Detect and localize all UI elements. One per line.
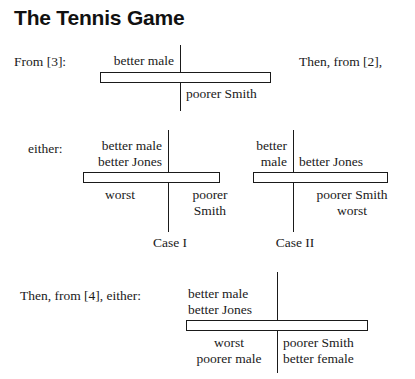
- label-line: poorer male: [186, 351, 272, 367]
- figure-title: The Tennis Game: [14, 6, 185, 30]
- label-line: male: [223, 154, 287, 170]
- diagram-case-1-below-right-labels: poorer Smith: [174, 187, 246, 219]
- diagram-case-2-below-right-labels: poorer Smith worst: [297, 187, 407, 219]
- label-line: worst: [78, 187, 162, 203]
- diagram-from-3-above-left-labels: better male: [60, 53, 174, 69]
- diagram-case-1-net-bar: [83, 172, 220, 183]
- label-line: poorer Smith: [283, 335, 403, 351]
- label-line: Smith: [174, 203, 246, 219]
- diagram-from-4-net-bar: [186, 320, 368, 331]
- diagram-case-2-above-right-labels: better Jones: [299, 154, 409, 170]
- tennis-game-figure: The Tennis Game From [3]: Then, from [2]…: [0, 0, 415, 379]
- diagram-case-1-above-left-labels: better male better Jones: [48, 138, 162, 170]
- diagram-from-3-below-right-labels: poorer Smith: [186, 86, 336, 102]
- diagram-from-3-side-note: Then, from [2],: [299, 54, 382, 69]
- label-line: worst: [297, 203, 407, 219]
- label-line: better Jones: [48, 154, 162, 170]
- label-line: better: [223, 138, 287, 154]
- label-line: better male: [48, 138, 162, 154]
- label-line: poorer: [174, 187, 246, 203]
- label-line: poorer Smith: [186, 86, 336, 102]
- diagram-case-1-caption: Case I: [130, 235, 210, 250]
- diagram-case-2-net-bar: [253, 172, 388, 183]
- diagram-case-1-below-left-labels: worst: [78, 187, 162, 203]
- diagram-case-2-above-left-labels: better male: [223, 138, 287, 170]
- diagram-from-3-net-bar: [100, 72, 271, 83]
- label-line: poorer Smith: [297, 187, 407, 203]
- diagram-from-4-below-left-labels: worst poorer male: [186, 335, 272, 367]
- label-line: better female: [283, 351, 403, 367]
- diagram-from-4-below-right-labels: poorer Smith better female: [283, 335, 403, 367]
- diagram-from-3-lead-label: From [3]:: [14, 54, 66, 69]
- label-line: better Jones: [299, 154, 409, 170]
- label-line: worst: [186, 335, 272, 351]
- label-line: better male: [60, 53, 174, 69]
- diagram-case-2-caption: Case II: [253, 235, 337, 250]
- diagram-from-4-lead-label: Then, from [4], either:: [20, 288, 141, 303]
